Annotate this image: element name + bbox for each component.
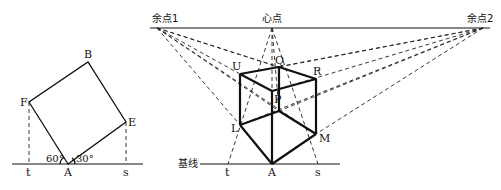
rotated-square bbox=[29, 62, 126, 164]
label-m: M bbox=[319, 132, 330, 145]
label-b: B bbox=[84, 48, 92, 61]
edge-back-m bbox=[279, 111, 316, 134]
label-s-left: s bbox=[123, 166, 129, 179]
label-vp1: 余点1 bbox=[152, 12, 178, 24]
perspective-diagram: B F E A t s 60° 30° bbox=[0, 0, 501, 190]
label-a-right: A bbox=[267, 166, 277, 179]
edge-l-a bbox=[240, 125, 272, 164]
right-perspective-figure: 余点1 心点 余点2 基线 U Q R P L M A t s bbox=[150, 12, 493, 179]
label-u: U bbox=[232, 60, 241, 73]
label-t-left: t bbox=[26, 166, 31, 179]
cube bbox=[240, 67, 316, 164]
label-s-right: s bbox=[315, 166, 321, 179]
left-square-figure: B F E A t s 60° 30° bbox=[12, 48, 143, 179]
vp2-construction-lines bbox=[240, 28, 483, 134]
edge-a-m bbox=[272, 134, 316, 164]
label-vp2: 余点2 bbox=[467, 12, 493, 24]
label-f: F bbox=[20, 96, 28, 109]
label-l: L bbox=[231, 122, 239, 135]
edge-l-back bbox=[240, 111, 279, 125]
label-t-right: t bbox=[225, 166, 230, 179]
angle-30-label: 30° bbox=[76, 153, 94, 164]
label-p: P bbox=[274, 93, 282, 106]
label-e: E bbox=[128, 116, 136, 129]
label-baseline: 基线 bbox=[178, 157, 198, 169]
label-a-left: A bbox=[63, 166, 73, 179]
label-center-point: 心点 bbox=[262, 13, 282, 24]
label-q: Q bbox=[275, 54, 284, 67]
angle-60-label: 60° bbox=[46, 153, 64, 164]
label-r: R bbox=[313, 65, 322, 78]
diagram-canvas: B F E A t s 60° 30° bbox=[0, 0, 501, 190]
